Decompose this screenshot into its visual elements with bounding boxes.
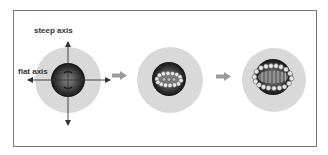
panel-3 [242,48,306,112]
ring-of-circles-icon [155,71,183,87]
panel-2 [137,47,203,113]
flat-axis-label: flat axis [18,68,48,76]
diagram-canvas [0,0,328,155]
transition-arrow-1-icon [112,71,127,80]
inner-band [258,71,288,84]
transition-arrow-2-icon [216,72,231,81]
steep-axis-label: steep axis [34,27,73,35]
panel-1 [28,42,110,125]
